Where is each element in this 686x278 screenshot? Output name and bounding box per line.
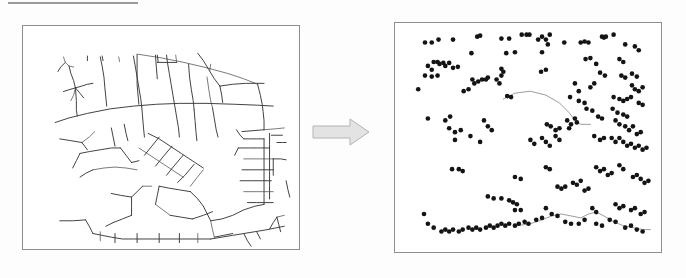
trace-line [503,91,590,124]
road-segment [132,186,143,197]
data-point [416,87,421,92]
data-point [460,227,465,232]
data-point [544,206,549,211]
road-segment [190,170,203,186]
road-segment [82,132,95,143]
data-point [526,221,531,226]
data-point [576,99,581,104]
data-point [576,221,581,226]
data-point [573,81,578,86]
data-point [646,179,651,184]
data-point [611,32,616,37]
data-point [617,136,622,141]
data-point [499,196,504,201]
data-point [586,186,591,191]
road-segment [213,108,219,137]
data-point [453,138,458,143]
data-point [548,124,553,129]
road-segment [211,221,215,237]
data-point [478,33,483,38]
road-segment [198,53,220,86]
data-point [507,36,512,41]
data-point [540,50,545,55]
data-point [513,50,518,55]
data-point [613,219,618,224]
road-segment [111,128,115,146]
road-segment [167,62,179,137]
data-point [546,42,551,47]
data-point [642,210,647,215]
road-segment [63,88,75,92]
data-point [621,204,626,209]
data-point [611,95,616,100]
data-point [623,42,628,47]
data-point [578,40,583,45]
data-point [576,89,581,94]
data-point [615,110,620,115]
data-point [547,143,552,148]
road-segment [137,54,139,104]
data-point [575,120,580,125]
data-point [607,218,612,223]
data-point [640,85,645,90]
data-point [638,177,643,182]
data-point [609,136,614,141]
data-point [516,221,521,226]
road-segment [93,167,137,170]
data-point [534,218,539,223]
data-point [486,75,491,80]
road-segment [100,57,106,106]
data-point [451,65,456,70]
data-point [422,212,427,217]
data-point [540,34,545,39]
data-point [629,141,634,146]
data-point [600,223,605,228]
road-segment [132,161,139,163]
data-point [590,108,595,113]
data-point [578,179,583,184]
road-segment [86,220,93,234]
data-point [547,167,552,172]
data-point [631,124,636,129]
data-point [447,126,452,131]
road-segment [270,217,277,229]
road-segment [244,234,251,247]
road-segment [71,88,76,101]
data-point [634,74,639,79]
data-point [486,124,491,129]
road-segment [176,55,177,62]
data-point [644,145,649,150]
data-point [600,116,605,121]
road-segment [111,193,131,197]
data-point [617,163,622,168]
road-segment [75,88,83,98]
data-point [592,134,597,139]
data-point [623,75,628,80]
data-point [602,136,607,141]
road-segment [155,186,159,204]
data-point [466,87,471,92]
data-point [429,74,434,79]
trace-lines [503,91,650,229]
section-rule [8,2,138,4]
data-point [460,169,465,174]
data-point [436,37,441,42]
road-segment [155,146,172,166]
data-point [426,64,431,69]
data-point [602,167,607,172]
road-segment [75,83,92,88]
road-segment [93,234,211,239]
road-segment [60,220,86,221]
road-segment [55,103,273,122]
data-point [447,61,452,66]
road-segment [73,153,80,168]
data-point [443,118,448,123]
road-segment [194,110,197,141]
road-segment [167,155,184,175]
data-point [527,32,532,37]
data-point [497,81,502,86]
road-segment [124,124,128,140]
data-point [489,128,494,133]
road-segment [203,206,210,221]
data-point [491,196,496,201]
